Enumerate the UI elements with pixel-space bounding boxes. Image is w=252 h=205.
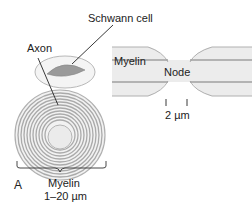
node-label: Node (164, 66, 190, 78)
axon-label: Axon (27, 42, 52, 54)
schwann-leader-line (72, 25, 113, 64)
myelin-cross-section (15, 56, 105, 180)
node-width-label: 2 µm (165, 109, 190, 121)
panel-label: A (14, 179, 22, 191)
longitudinal-myelin-label: Myelin (114, 55, 146, 67)
diagram-canvas (0, 0, 252, 205)
schwann-cell-label: Schwann cell (88, 12, 153, 24)
axon-core (48, 125, 72, 149)
myelin-label: Myelin (48, 177, 80, 189)
myelin-thickness-label: 1–20 µm (44, 190, 87, 202)
